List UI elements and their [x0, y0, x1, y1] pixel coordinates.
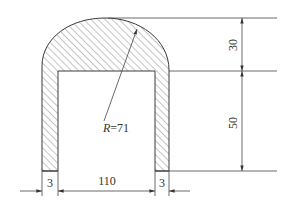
dim-label-inner-width: 110: [98, 174, 116, 188]
dim-label-arch-height: 30: [226, 39, 240, 51]
radius-label: R=71: [102, 121, 129, 135]
hatched-section: [42, 18, 169, 171]
dim-label-wall-height: 50: [226, 117, 240, 129]
cross-section-diagram: 30 50 3 110 3 R=71: [0, 0, 292, 210]
radius-value: =71: [110, 121, 129, 135]
dim-label-right-thickness: 3: [159, 176, 165, 190]
dim-label-left-thickness: 3: [47, 176, 53, 190]
